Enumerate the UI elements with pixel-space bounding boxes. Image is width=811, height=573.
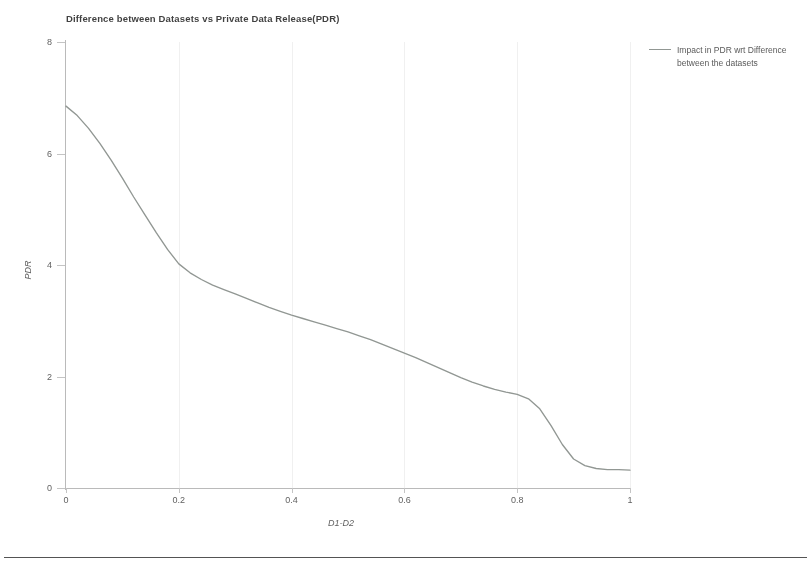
x-axis-line — [65, 488, 631, 489]
y-tick-label: 8 — [22, 37, 52, 47]
x-axis-tick — [179, 488, 180, 493]
legend-item: Impact in PDR wrt Difference between the… — [649, 44, 801, 70]
footer-divider — [4, 557, 807, 558]
gridline-vertical — [404, 42, 405, 488]
y-axis-tick — [57, 377, 65, 378]
y-tick-label: 2 — [22, 372, 52, 382]
x-axis-title: D1-D2 — [328, 518, 354, 528]
gridline-vertical — [292, 42, 293, 488]
y-axis-title: PDR — [23, 260, 33, 279]
legend-line-swatch-icon — [649, 44, 671, 54]
y-axis-line — [65, 40, 66, 490]
y-tick-label: 6 — [22, 149, 52, 159]
x-axis-tick — [404, 488, 405, 493]
x-axis-tick — [292, 488, 293, 493]
gridline-vertical — [630, 42, 631, 488]
chart-title: Difference between Datasets vs Private D… — [66, 13, 339, 24]
gridline-vertical — [517, 42, 518, 488]
y-tick-label-group: 02468 — [14, 0, 52, 573]
gridline-vertical — [179, 42, 180, 488]
x-axis-tick — [517, 488, 518, 493]
x-tick-label: 1 — [610, 495, 650, 505]
x-axis-tick — [630, 488, 631, 493]
x-tick-label: 0.8 — [497, 495, 537, 505]
x-tick-label: 0.4 — [272, 495, 312, 505]
x-axis-tick — [66, 488, 67, 493]
y-axis-tick — [57, 154, 65, 155]
x-tick-label: 0.2 — [159, 495, 199, 505]
y-tick-label: 0 — [22, 483, 52, 493]
legend-item-label: Impact in PDR wrt Difference between the… — [677, 44, 795, 70]
y-axis-tick — [57, 488, 65, 489]
x-tick-label: 0 — [46, 495, 86, 505]
x-tick-label: 0.6 — [384, 495, 424, 505]
chart-figure: Difference between Datasets vs Private D… — [0, 0, 811, 573]
plot-area — [66, 42, 630, 488]
y-axis-tick — [57, 265, 65, 266]
y-axis-tick — [57, 42, 65, 43]
legend: Impact in PDR wrt Difference between the… — [649, 44, 801, 70]
